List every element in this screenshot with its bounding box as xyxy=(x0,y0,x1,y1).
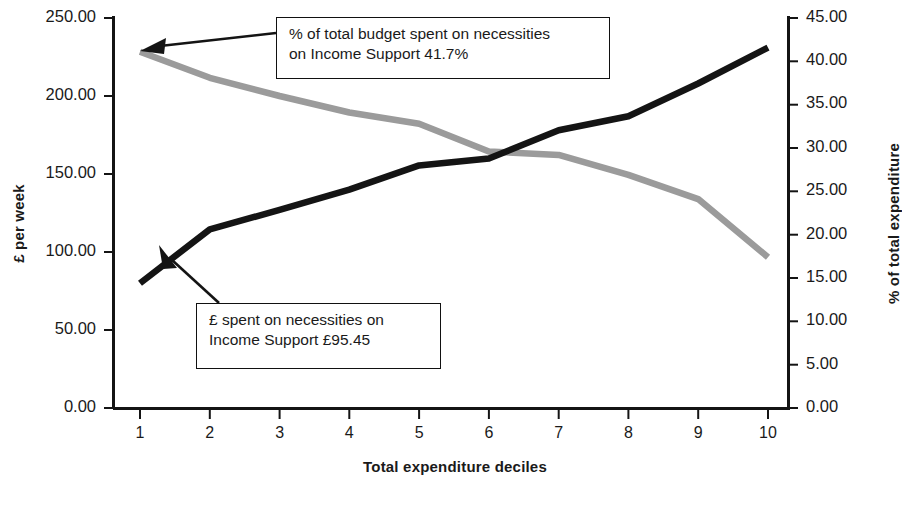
left-tick-label: 50.00 xyxy=(10,319,96,338)
annotation-percent-line2: on Income Support 41.7% xyxy=(289,44,599,64)
right-tick-label: 40.00 xyxy=(806,50,892,69)
right-tick-label: 0.00 xyxy=(806,397,892,416)
left-tick-label: 200.00 xyxy=(10,85,96,104)
x-tick-label: 1 xyxy=(120,424,160,442)
right-tick-label: 45.00 xyxy=(806,7,892,26)
x-tick-label: 8 xyxy=(608,424,648,442)
annotation-pounds-callout: £ spent on necessities on Income Support… xyxy=(196,303,441,369)
callout-pounds-leader xyxy=(159,245,219,303)
right-tick-label: 10.00 xyxy=(806,310,892,329)
series-line-percent-of-expenditure xyxy=(140,52,768,257)
left-tick-label: 250.00 xyxy=(10,7,96,26)
x-tick-label: 6 xyxy=(469,424,509,442)
x-tick-label: 7 xyxy=(539,424,579,442)
right-tick-label: 25.00 xyxy=(806,180,892,199)
y-axis-right-title: % of total expenditure xyxy=(885,124,902,324)
x-tick-label: 10 xyxy=(748,424,788,442)
x-axis-ticks xyxy=(140,409,768,419)
right-tick-label: 20.00 xyxy=(806,224,892,243)
right-tick-label: 5.00 xyxy=(806,354,892,373)
x-tick-label: 9 xyxy=(678,424,718,442)
annotation-percent-callout: % of total budget spent on necessities o… xyxy=(276,17,610,79)
right-axis-ticks xyxy=(789,18,798,408)
x-tick-label: 5 xyxy=(399,424,439,442)
right-tick-label: 30.00 xyxy=(806,137,892,156)
annotation-pounds-line1: £ spent on necessities on xyxy=(209,310,430,330)
y-axis-left-title: £ per week xyxy=(10,144,27,304)
annotation-percent-line1: % of total budget spent on necessities xyxy=(289,24,599,44)
x-tick-label: 2 xyxy=(190,424,230,442)
x-tick-label: 4 xyxy=(329,424,369,442)
callout-percent-leader xyxy=(140,33,276,54)
annotation-pounds-line2: Income Support £95.45 xyxy=(209,330,430,350)
x-tick-label: 3 xyxy=(260,424,300,442)
x-axis-title: Total expenditure deciles xyxy=(140,458,770,475)
right-tick-label: 35.00 xyxy=(806,93,892,112)
left-axis-ticks xyxy=(104,18,113,408)
left-tick-label: 0.00 xyxy=(10,397,96,416)
right-tick-label: 15.00 xyxy=(806,267,892,286)
